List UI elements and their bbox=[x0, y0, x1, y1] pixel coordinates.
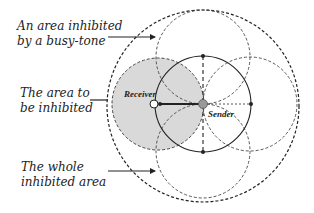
label-line: by a busy-tone bbox=[17, 34, 122, 49]
label-line: be inhibited bbox=[20, 101, 93, 116]
label-line: inhibited area bbox=[21, 175, 106, 190]
sender-label: Sender bbox=[208, 109, 234, 119]
label-line: An area inhibited bbox=[17, 19, 122, 34]
sender-node bbox=[199, 100, 208, 109]
label-busy-tone-area: An area inhibited by a busy-tone bbox=[17, 19, 122, 49]
label-area-to-be-inhibited: The area to be inhibited bbox=[20, 86, 93, 116]
label-line: The whole bbox=[21, 160, 106, 175]
diagram: An area inhibited by a busy-tone The are… bbox=[0, 0, 314, 213]
label-line: The area to bbox=[20, 86, 93, 101]
receiver-node bbox=[150, 100, 158, 108]
label-whole-inhibited-area: The whole inhibited area bbox=[21, 160, 106, 190]
receiver-label: Receiver bbox=[124, 89, 156, 99]
